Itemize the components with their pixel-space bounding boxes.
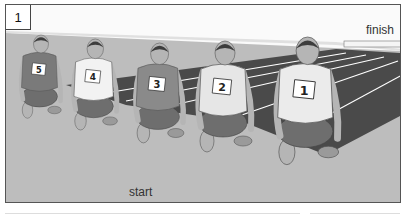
start-label: start (129, 185, 152, 199)
runner-bib-number: 1 (300, 83, 309, 98)
runner-bib-number: 3 (153, 79, 160, 90)
runner-shoe (234, 136, 252, 146)
runner-shoe (48, 106, 62, 114)
divider (310, 213, 400, 214)
panel-number: 1 (6, 5, 31, 30)
runner-shoe (168, 129, 184, 138)
illustration-panel: 54321 1 finish start (5, 4, 401, 203)
runner-bib-number: 5 (36, 65, 42, 75)
runner-bib-number: 4 (90, 72, 96, 82)
runner-bib-number: 2 (218, 81, 226, 94)
race-start-scene: 54321 (6, 5, 401, 203)
runner-shoe (103, 117, 118, 125)
divider (5, 213, 300, 214)
finish-label: finish (366, 23, 394, 37)
runner-shoe (318, 146, 339, 158)
finish-line-post (344, 41, 401, 47)
